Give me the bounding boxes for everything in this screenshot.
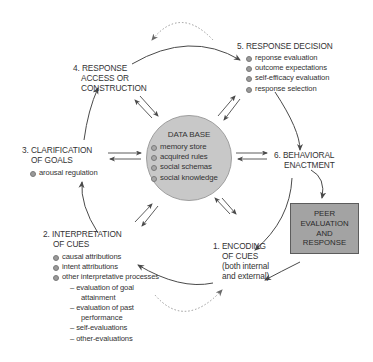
step-1-title-line2: OF CUES — [213, 251, 269, 261]
step-6-behavioral-enactment: 6. BEHAVIORAL ENACTMENT — [274, 150, 335, 170]
sub-item-continuation: performance — [70, 313, 159, 323]
step-2-sub-items: – evaluation of goal attainment – evalua… — [70, 283, 159, 344]
database-item: acquired rules — [150, 152, 228, 162]
step-1-encoding-of-cues: 1. ENCODING OF CUES (both internal and e… — [213, 241, 269, 281]
step-4-title-line3: CONSTRUCTION — [73, 83, 147, 93]
step-4-title-line2: ACCESS OR — [73, 73, 147, 83]
step-4-title-line1: 4. RESPONSE — [73, 63, 147, 73]
bullet-icon — [53, 275, 59, 281]
bullet-icon — [151, 176, 157, 182]
bullet-icon — [53, 265, 59, 271]
bullet-item: outcome expectations — [245, 63, 333, 73]
step-1-sub-line1: (both internal — [213, 261, 269, 271]
sub-item: – evaluation of past — [70, 303, 159, 313]
database-item: memory store — [150, 142, 228, 152]
peer-evaluation-label: PEER EVALUATION AND RESPONSE — [300, 209, 348, 247]
bullet-item: self-efficacy evaluation — [245, 73, 333, 83]
step-2-title-line1: 2. INTERPRETATION — [43, 229, 159, 239]
database-item: social schemas — [150, 162, 228, 172]
step-3-title-line2: OF GOALS — [22, 155, 98, 165]
bullet-item: other interpretative processes — [52, 272, 159, 282]
database-title: DATA BASE — [150, 130, 228, 140]
step-6-title-line2: ENACTMENT — [274, 160, 335, 170]
bullet-icon — [246, 87, 252, 93]
bullet-icon — [30, 171, 36, 177]
step-4-response-access: 4. RESPONSE ACCESS OR CONSTRUCTION — [73, 63, 147, 93]
step-1-sub-line2: and external) — [213, 271, 269, 281]
step-1-title-line1: 1. ENCODING — [213, 241, 269, 251]
step-2-title-line2: OF CUES — [43, 239, 159, 249]
bullet-icon — [246, 56, 252, 62]
bullet-icon — [53, 255, 59, 261]
bullet-icon — [246, 76, 252, 82]
step-5-title: 5. RESPONSE DECISION — [237, 41, 333, 51]
sub-item: – evaluation of goal — [70, 283, 159, 293]
database-item: social knowledge — [150, 173, 228, 183]
bullet-icon — [246, 66, 252, 72]
bullet-icon — [151, 145, 157, 151]
bullet-icon — [151, 165, 157, 171]
bullet-icon — [151, 155, 157, 161]
sip-model-diagram: 4. RESPONSE ACCESS OR CONSTRUCTION 5. RE… — [0, 0, 373, 362]
database-content: DATA BASE memory store acquired rules so… — [150, 130, 228, 183]
step-3-title-line1: 3. CLARIFICATION — [22, 145, 98, 155]
bullet-item: response selection — [245, 84, 333, 94]
bullet-item: intent attributions — [52, 262, 159, 272]
step-5-bullets: reponse evaluation outcome expectations … — [245, 53, 333, 94]
step-2-interpretation-of-cues: 2. INTERPRETATION OF CUES causal attribu… — [43, 229, 159, 344]
bullet-item: reponse evaluation — [245, 53, 333, 63]
bullet-item: causal attributions — [52, 252, 159, 262]
database-items: memory store acquired rules social schem… — [150, 142, 228, 183]
step-6-title-line1: 6. BEHAVIORAL — [274, 150, 335, 160]
sub-item: – other-evaluations — [70, 334, 159, 344]
peer-evaluation-box: PEER EVALUATION AND RESPONSE — [290, 203, 359, 254]
bullet-item: arousal regulation — [29, 168, 98, 178]
step-5-response-decision: 5. RESPONSE DECISION reponse evaluation … — [237, 41, 333, 94]
sub-item: – self-evaluations — [70, 323, 159, 333]
step-2-bullets: causal attributions intent attributions … — [52, 252, 159, 283]
step-3-clarification-of-goals: 3. CLARIFICATION OF GOALS arousal regula… — [22, 145, 98, 178]
sub-item-continuation: attainment — [70, 293, 159, 303]
step-3-bullets: arousal regulation — [29, 168, 98, 178]
